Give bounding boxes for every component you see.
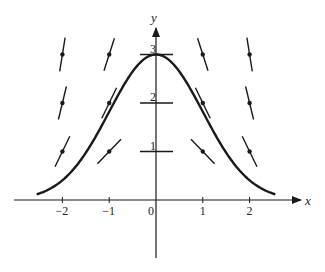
x-tick-label: −2 — [55, 204, 68, 218]
x-tick-label: 0 — [148, 204, 154, 218]
y-tick-label: 2 — [150, 90, 156, 104]
x-tick-label: −1 — [102, 204, 115, 218]
slope-point-dot — [60, 101, 64, 105]
x-axis-label: x — [304, 193, 311, 208]
slope-point-dot — [201, 101, 205, 105]
slope-point-dot — [60, 52, 64, 56]
y-axis-label: y — [149, 10, 157, 25]
x-tick-label: 1 — [200, 204, 206, 218]
slope-point-dot — [247, 101, 251, 105]
slope-point-dot — [247, 149, 251, 153]
slope-point-dot — [201, 149, 205, 153]
slope-point-dot — [107, 101, 111, 105]
plot-canvas: x y −2−1012 123 — [0, 0, 325, 272]
slope-point-dot — [107, 149, 111, 153]
slope-point-dot — [60, 149, 64, 153]
slope-point-dot — [201, 52, 205, 56]
slope-point-dot — [107, 52, 111, 56]
x-tick-label: 2 — [247, 204, 253, 218]
slope-point-dot — [247, 52, 251, 56]
y-tick-label: 1 — [150, 139, 156, 153]
slope-field-figure: x y −2−1012 123 — [0, 0, 325, 272]
